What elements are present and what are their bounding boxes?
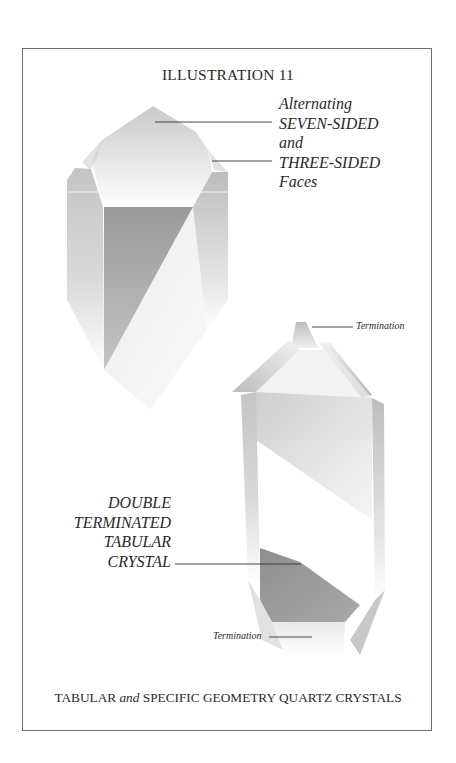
- crystal-double-terminated: [232, 322, 385, 656]
- callout-line: THREE-SIDED: [279, 153, 380, 173]
- callout-line: DOUBLE: [74, 493, 171, 513]
- callout-termination-top: Termination: [356, 320, 405, 331]
- illustration-title: ILLUSTRATION 11: [0, 66, 456, 84]
- callout-line: TABULAR: [74, 532, 171, 552]
- callout-line: CRYSTAL: [74, 552, 171, 572]
- callout-seven-three-sided: Alternating SEVEN-SIDED and THREE-SIDED …: [279, 94, 380, 192]
- callout-line: and: [279, 133, 380, 153]
- illustration-caption: TABULAR and SPECIFIC GEOMETRY QUARTZ CRY…: [0, 690, 456, 706]
- callout-line: Alternating: [279, 94, 380, 114]
- callout-termination-bottom: Termination: [213, 630, 262, 641]
- crystal-drawings: [0, 0, 456, 763]
- callout-line: Faces: [279, 172, 380, 192]
- crystal-seven-sided: [67, 106, 228, 410]
- callout-double-terminated: DOUBLE TERMINATED TABULAR CRYSTAL: [74, 493, 171, 571]
- caption-part-2: and: [119, 690, 139, 705]
- callout-line: TERMINATED: [74, 513, 171, 533]
- caption-part-1: TABULAR: [54, 690, 116, 705]
- caption-part-3: SPECIFIC GEOMETRY QUARTZ CRYSTALS: [143, 690, 402, 705]
- callout-line: SEVEN-SIDED: [279, 114, 380, 134]
